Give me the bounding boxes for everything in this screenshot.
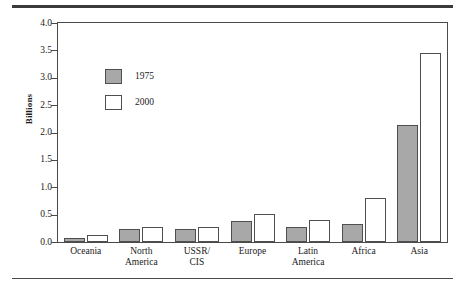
bar-1975-latinamerica bbox=[286, 227, 307, 242]
bar-2000-europe bbox=[254, 214, 275, 242]
y-tick-label: 0.0 bbox=[22, 237, 52, 247]
y-tick-label: 1.0 bbox=[22, 182, 52, 192]
bar-2000-northamerica bbox=[142, 227, 163, 242]
y-tick-label: 2.5 bbox=[22, 100, 52, 110]
chart-legend: 1975 2000 bbox=[105, 66, 154, 118]
y-tick-label: 1.5 bbox=[22, 154, 52, 164]
y-tick-label: 2.0 bbox=[22, 127, 52, 137]
legend-label-2000: 2000 bbox=[135, 97, 154, 107]
top-rule bbox=[12, 5, 453, 8]
bar-1975-northamerica bbox=[119, 229, 140, 242]
legend-label-1975: 1975 bbox=[135, 71, 154, 81]
x-tick-label: Asia bbox=[381, 246, 457, 257]
bar-2000-oceania bbox=[87, 235, 108, 242]
bar-2000-ussrcis bbox=[198, 227, 219, 242]
bar-2000-latinamerica bbox=[309, 220, 330, 242]
x-tick-label-line1: Asia bbox=[381, 246, 457, 257]
bar-1975-ussrcis bbox=[175, 229, 196, 242]
y-tick-label: 3.0 bbox=[22, 72, 52, 82]
legend-swatch-1975-icon bbox=[105, 69, 122, 84]
legend-swatch-2000-icon bbox=[105, 95, 122, 110]
x-tick-label-line2: CIS bbox=[159, 257, 235, 268]
bar-1975-africa bbox=[342, 224, 363, 242]
x-tick-label-line2: America bbox=[270, 257, 346, 268]
y-tick-label: 3.5 bbox=[22, 45, 52, 55]
figure-page: Billions 4.03.53.02.52.01.51.00.50.0 Oce… bbox=[0, 0, 457, 288]
bar-1975-europe bbox=[231, 221, 252, 242]
bar-1975-oceania bbox=[64, 238, 85, 242]
bottom-rule bbox=[12, 278, 453, 279]
legend-entry-2000: 2000 bbox=[105, 92, 154, 112]
y-tick-label: 4.0 bbox=[22, 18, 52, 28]
bar-1975-asia bbox=[397, 125, 418, 242]
bar-2000-asia bbox=[420, 53, 441, 242]
legend-entry-1975: 1975 bbox=[105, 66, 154, 86]
y-tick-label: 0.5 bbox=[22, 209, 52, 219]
bar-2000-africa bbox=[365, 198, 386, 242]
plot-area bbox=[58, 23, 447, 242]
